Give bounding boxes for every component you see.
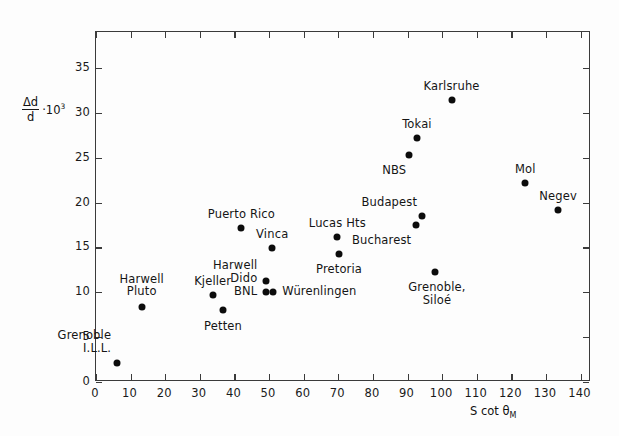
data-point[interactable] [406,151,413,158]
data-point[interactable] [413,221,420,228]
y-axis-label: Δd d ·103 [22,96,65,123]
data-point-label: Harwell Dido [213,259,257,285]
x-tick-label-100: 100 [430,386,453,400]
x-tick-label-90: 90 [399,386,414,400]
y-tick-10 [96,292,102,293]
data-point-label: Grenoble I.L.L. [58,329,112,355]
y-tick-label-25: 25 [72,150,90,164]
x-tick-label-140: 140 [568,386,591,400]
data-point[interactable] [555,206,562,213]
x-tick-0 [96,374,97,380]
x-tick-label-120: 120 [499,386,522,400]
data-point-label: Karlsruhe [424,80,480,93]
x-tick-10 [131,374,132,380]
data-point[interactable] [209,291,216,298]
x-tick-130 [546,374,547,380]
data-point[interactable] [220,307,227,314]
y-tick-20 [96,203,102,204]
data-point-label: NBS [382,164,406,177]
y-tick-right-25 [583,158,589,159]
y-tick-right-30 [583,113,589,114]
x-tick-140 [581,374,582,380]
x-tick-label-80: 80 [364,386,379,400]
data-point[interactable] [138,303,145,310]
x-tick-label-110: 110 [464,386,487,400]
x-tick-label-20: 20 [157,386,172,400]
data-point-label: Harwell Pluto [120,273,164,299]
data-point[interactable] [269,245,276,252]
data-point[interactable] [522,179,529,186]
x-tick-label-0: 0 [91,386,99,400]
data-point[interactable] [448,97,455,104]
x-tick-label-130: 130 [534,386,557,400]
x-tick-40 [234,374,235,380]
data-point-label: Vinca [256,228,288,241]
data-point-label: Würenlingen [282,285,356,298]
x-tick-top-70 [338,32,339,38]
y-tick-right-0 [583,382,589,383]
x-tick-30 [200,374,201,380]
x-tick-top-100 [442,32,443,38]
x-tick-label-50: 50 [261,386,276,400]
x-tick-label-10: 10 [122,386,137,400]
y-tick-35 [96,68,102,69]
data-point-label: Negev [539,190,577,203]
x-tick-100 [442,374,443,380]
data-point-label: BNL [234,285,257,298]
y-tick-label-30: 30 [72,105,90,119]
data-point-label: Mol [515,163,536,176]
x-axis-subscript: M [510,411,517,420]
x-tick-60 [304,374,305,380]
y-axis-exponent: 3 [60,102,65,111]
x-tick-top-60 [304,32,305,38]
data-point[interactable] [238,225,245,232]
data-point[interactable] [334,233,341,240]
y-axis-fraction: Δd d [22,96,39,123]
x-tick-top-10 [131,32,132,38]
y-tick-label-10: 10 [72,284,90,298]
data-point[interactable] [270,289,277,296]
x-tick-top-110 [477,32,478,38]
x-tick-110 [477,374,478,380]
data-point[interactable] [419,212,426,219]
data-point[interactable] [263,278,270,285]
data-point-label: Puerto Rico [208,208,275,221]
x-tick-70 [338,374,339,380]
x-tick-top-120 [511,32,512,38]
y-tick-label-15: 15 [72,239,90,253]
data-point-label: Budapest [362,196,418,209]
x-tick-label-40: 40 [226,386,241,400]
x-tick-top-130 [546,32,547,38]
data-point[interactable] [431,269,438,276]
y-tick-0 [96,382,102,383]
y-tick-right-5 [583,337,589,338]
x-tick-label-60: 60 [295,386,310,400]
data-point-label: Petten [204,320,242,333]
y-axis-denominator: d [26,111,35,123]
x-tick-top-50 [269,32,270,38]
data-point-label: Bucharest [352,234,411,247]
x-tick-top-30 [200,32,201,38]
y-tick-right-20 [583,203,589,204]
x-tick-50 [269,374,270,380]
data-point-label: Grenoble, Siloé [408,281,465,307]
x-axis-label: S cot θM [470,404,516,420]
data-point-label: Lucas Hts [309,217,366,230]
y-axis-multiplier: ·103 [41,102,65,117]
x-tick-90 [408,374,409,380]
y-tick-right-35 [583,68,589,69]
data-point[interactable] [114,360,121,367]
y-tick-25 [96,158,102,159]
plot-area [95,31,590,381]
y-tick-right-15 [583,247,589,248]
y-tick-label-0: 0 [72,374,90,388]
x-tick-label-30: 30 [191,386,206,400]
x-tick-top-80 [373,32,374,38]
data-point[interactable] [413,134,420,141]
y-tick-right-10 [583,292,589,293]
y-axis-numerator: Δd [22,96,39,108]
data-point[interactable] [336,250,343,257]
x-tick-80 [373,374,374,380]
x-tick-20 [165,374,166,380]
x-tick-120 [511,374,512,380]
